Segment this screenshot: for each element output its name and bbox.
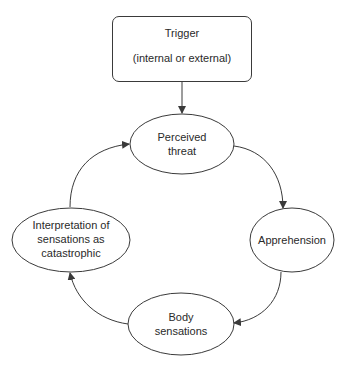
label-line: Perceived: [132, 130, 232, 144]
label-line: sensations: [131, 324, 231, 338]
label-line: threat: [132, 144, 232, 158]
node-body-sensations-label: Body sensations: [131, 310, 231, 338]
node-perceived-threat-label: Perceived threat: [132, 130, 232, 158]
label-line: Body: [131, 310, 231, 324]
trigger-subtitle: (internal or external): [113, 52, 251, 64]
trigger-title: Trigger: [113, 27, 251, 39]
label-line: catastrophic: [12, 246, 130, 260]
edge-threat-to-apprehension: [234, 146, 283, 208]
node-interpretation-label: Interpretation of sensations as catastro…: [12, 218, 130, 260]
edge-body-to-interpretation: [70, 273, 128, 324]
node-apprehension-label: Apprehension: [250, 233, 334, 247]
edge-apprehension-to-body: [234, 272, 281, 323]
label-line: Interpretation of: [12, 218, 130, 232]
label-line: sensations as: [12, 232, 130, 246]
trigger-node: Trigger (internal or external): [112, 16, 252, 82]
edge-interpretation-to-threat: [70, 144, 129, 207]
label-line: Apprehension: [250, 233, 334, 247]
